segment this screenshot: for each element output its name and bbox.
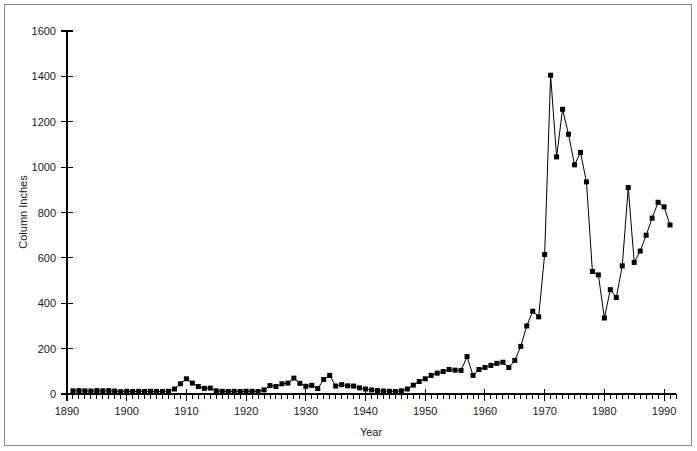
data-point — [220, 389, 225, 394]
data-point — [476, 367, 481, 372]
data-point — [393, 389, 398, 394]
data-point — [447, 367, 452, 372]
data-point — [405, 387, 410, 392]
data-point — [82, 388, 87, 393]
y-tick-label: 400 — [38, 297, 56, 309]
y-tick-label: 600 — [38, 252, 56, 264]
x-tick-label: 1920 — [234, 405, 258, 417]
data-point — [518, 344, 523, 349]
data-point — [297, 381, 302, 386]
series-line-column-inches — [73, 75, 670, 391]
data-point — [118, 389, 123, 394]
x-tick-label: 1960 — [473, 405, 497, 417]
data-point — [208, 386, 213, 391]
data-point — [250, 389, 255, 394]
data-point — [614, 295, 619, 300]
data-point — [160, 389, 165, 394]
x-tick-label: 1900 — [114, 405, 138, 417]
data-point — [572, 162, 577, 167]
data-point — [345, 383, 350, 388]
data-point — [214, 388, 219, 393]
data-point — [662, 204, 667, 209]
data-point — [488, 363, 493, 368]
data-point — [303, 384, 308, 389]
data-point — [459, 368, 464, 373]
data-point — [166, 389, 171, 394]
x-tick-label: 1910 — [174, 405, 198, 417]
data-point — [196, 384, 201, 389]
data-point — [417, 379, 422, 384]
data-point — [351, 384, 356, 389]
data-point — [506, 365, 511, 370]
data-point — [465, 354, 470, 359]
series-markers-column-inches — [70, 73, 672, 394]
data-point — [369, 387, 374, 392]
x-tick-label: 1980 — [592, 405, 616, 417]
data-point — [399, 388, 404, 393]
data-point — [411, 383, 416, 388]
x-tick-label: 1930 — [294, 405, 318, 417]
data-point — [494, 361, 499, 366]
data-point — [632, 260, 637, 265]
data-point — [590, 269, 595, 274]
data-point — [244, 389, 249, 394]
data-point — [291, 376, 296, 381]
chart-figure: 02004006008001000120014001600 1890190019… — [0, 0, 697, 451]
data-point — [560, 107, 565, 112]
data-point — [524, 323, 529, 328]
data-point — [542, 252, 547, 257]
data-point — [226, 389, 231, 394]
data-point — [309, 383, 314, 388]
y-axis: 02004006008001000120014001600 — [32, 25, 73, 400]
y-tick-label: 0 — [50, 388, 56, 400]
data-point — [202, 386, 207, 391]
data-point — [112, 389, 117, 394]
data-point — [375, 388, 380, 393]
data-point — [536, 314, 541, 319]
data-point — [656, 200, 661, 205]
x-tick-label: 1890 — [55, 405, 79, 417]
data-point — [279, 381, 284, 386]
data-point — [172, 387, 177, 392]
x-tick-label: 1990 — [652, 405, 676, 417]
data-point — [136, 389, 141, 394]
data-point — [357, 385, 362, 390]
data-point — [548, 73, 553, 78]
data-point — [238, 389, 243, 394]
data-point — [178, 381, 183, 386]
data-point — [130, 389, 135, 394]
data-point — [285, 381, 290, 386]
data-point — [602, 316, 607, 321]
y-axis-tick-labels: 02004006008001000120014001600 — [32, 25, 56, 400]
data-point — [554, 154, 559, 159]
x-axis-minor-ticks — [67, 394, 676, 399]
data-point — [70, 388, 75, 393]
data-point — [608, 287, 613, 292]
y-axis-title: Column Inches — [17, 175, 29, 249]
data-point — [106, 388, 111, 393]
data-point — [530, 309, 535, 314]
data-point — [435, 371, 440, 376]
y-tick-label: 1200 — [32, 116, 56, 128]
data-point — [339, 382, 344, 387]
x-axis-title: Year — [360, 426, 383, 438]
data-point — [315, 386, 320, 391]
x-tick-label: 1950 — [413, 405, 437, 417]
data-point — [500, 360, 505, 365]
data-series — [70, 73, 672, 394]
data-point — [423, 376, 428, 381]
x-tick-label: 1970 — [532, 405, 556, 417]
data-point — [327, 373, 332, 378]
data-point — [256, 389, 261, 394]
data-point — [232, 389, 237, 394]
line-chart: 02004006008001000120014001600 1890190019… — [0, 0, 697, 451]
data-point — [184, 376, 189, 381]
data-point — [381, 389, 386, 394]
data-point — [578, 150, 583, 155]
data-point — [88, 389, 93, 394]
x-tick-label: 1940 — [353, 405, 377, 417]
data-point — [190, 381, 195, 386]
data-point — [482, 365, 487, 370]
y-tick-label: 1000 — [32, 161, 56, 173]
data-point — [596, 272, 601, 277]
